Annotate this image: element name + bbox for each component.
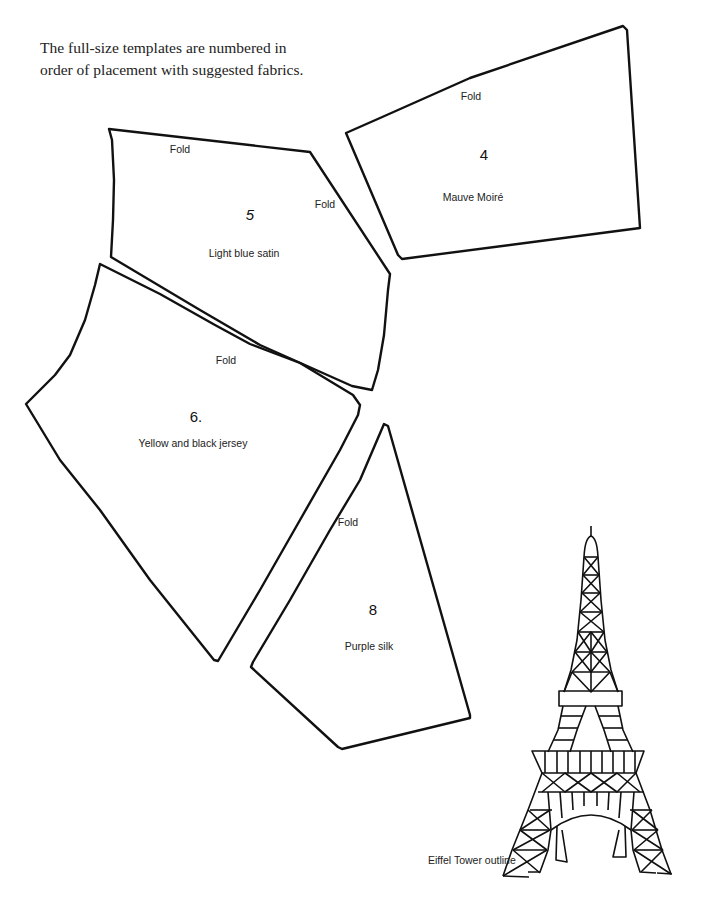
- eiffel-tower-caption: Eiffel Tower outline: [428, 854, 516, 866]
- template-6-fabric: Yellow and black jersey: [139, 437, 248, 449]
- template-8-fabric: Purple silk: [345, 640, 393, 652]
- template-5-outline: [109, 129, 390, 390]
- template-6-fold-label: Fold: [216, 354, 236, 366]
- template-4-fabric: Mauve Moiré: [443, 191, 504, 203]
- template-6-outline: [26, 264, 360, 661]
- template-8-fold-label: Fold: [338, 516, 358, 528]
- template-6-number: 6.: [190, 408, 203, 425]
- template-4-outline: [346, 26, 640, 259]
- template-page: The full-size templates are numbered in …: [0, 0, 704, 908]
- template-5-number: 5: [246, 206, 254, 223]
- template-8-outline: [251, 424, 470, 749]
- template-5-fabric: Light blue satin: [209, 247, 280, 259]
- eiffel-tower-icon: [503, 526, 672, 877]
- templates-canvas: [0, 0, 704, 908]
- template-4-fold-label: Fold: [461, 90, 481, 102]
- template-8-number: 8: [369, 601, 377, 618]
- template-4-number: 4: [480, 146, 488, 163]
- template-5-fold-label-side: Fold: [315, 198, 335, 210]
- template-5-fold-label-top: Fold: [170, 143, 190, 155]
